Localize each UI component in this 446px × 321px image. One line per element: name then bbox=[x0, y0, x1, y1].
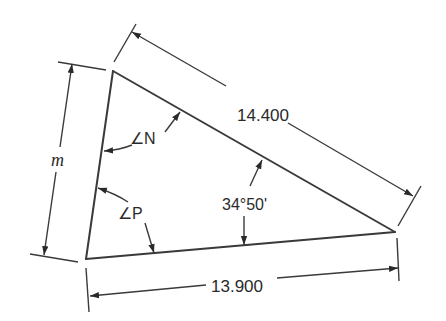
dimension-arrow-m-up bbox=[60, 64, 72, 147]
angle-right-annotation: 34°50' bbox=[222, 160, 267, 245]
angle-p-arrow-down bbox=[145, 223, 154, 253]
angle-p-label: ∠P bbox=[118, 205, 143, 222]
angle-n-annotation: ∠N bbox=[104, 112, 180, 151]
base-dimension: 13.900 bbox=[86, 238, 399, 312]
angle-n-arrow-right bbox=[165, 112, 180, 132]
extension-line-right bbox=[398, 186, 421, 226]
extension-line-top bbox=[114, 24, 136, 62]
triangle-diagram: 14.400 m 13.900 ∠N ∠P 34°50' bbox=[0, 0, 446, 321]
dimension-arrow-base-right bbox=[277, 268, 398, 278]
left-side-dimension: m bbox=[30, 62, 106, 262]
extension-line-m-bottom bbox=[30, 254, 78, 262]
extension-line-base-left bbox=[86, 268, 89, 312]
dimension-arrow-base-left bbox=[90, 285, 206, 296]
angle-n-arrow-left bbox=[104, 145, 132, 151]
hypotenuse-label: 14.400 bbox=[237, 106, 289, 125]
angle-p-annotation: ∠P bbox=[98, 188, 154, 253]
dimension-arrow-left bbox=[132, 32, 226, 86]
dimension-arrow-right bbox=[288, 123, 413, 196]
left-side-label: m bbox=[51, 150, 64, 170]
angle-n-label: ∠N bbox=[130, 130, 156, 147]
angle-right-arrow-up bbox=[250, 160, 262, 186]
base-label: 13.900 bbox=[211, 277, 263, 296]
extension-line-base-right bbox=[397, 238, 399, 281]
triangle bbox=[86, 71, 395, 259]
angle-right-label: 34°50' bbox=[222, 196, 267, 213]
left-edge bbox=[86, 71, 113, 259]
dimension-arrow-m-down bbox=[44, 172, 56, 255]
hypotenuse-dimension: 14.400 bbox=[114, 24, 421, 226]
base-edge bbox=[86, 232, 395, 259]
extension-line-m-top bbox=[58, 62, 106, 70]
angle-p-arrow-up bbox=[98, 188, 128, 202]
